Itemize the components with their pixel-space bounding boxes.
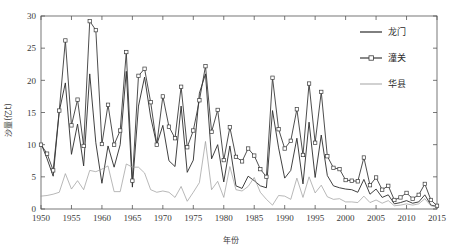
data-point-marker [423,182,426,185]
data-point-marker [350,179,353,182]
x-tick-label: 1975 [184,213,203,223]
data-point-marker [45,152,48,155]
data-point-marker [70,124,73,127]
y-tick-label: 10 [27,140,37,150]
data-point-marker [344,178,347,181]
data-point-marker [216,108,219,111]
legend-label-2: 潼关 [388,52,406,63]
x-tick-label: 1980 [215,213,234,223]
data-point-marker [259,167,262,170]
data-point-marker [76,98,79,101]
data-point-marker [143,67,146,70]
data-point-marker [429,198,432,201]
x-tick-label: 2010 [398,213,417,223]
data-point-marker [326,155,329,158]
data-point-marker [374,176,377,179]
x-tick-label: 1970 [154,213,173,223]
data-point-marker [295,108,298,111]
data-point-marker [179,85,182,88]
x-tick-label: 1960 [93,213,112,223]
data-point-marker [64,39,67,42]
data-point-marker [106,103,109,106]
x-axis-title: 年份 [223,235,239,245]
data-point-marker [222,158,225,161]
data-point-marker [58,109,61,112]
y-tick-label: 25 [27,43,37,53]
data-point-marker [313,141,316,144]
data-point-marker [246,147,249,150]
data-point-marker [271,76,274,79]
data-point-marker [228,126,231,129]
y-tick-label: 30 [27,11,37,21]
data-point-marker [125,50,128,53]
data-point-marker [307,82,310,85]
data-point-marker [387,184,390,187]
data-point-marker [405,191,408,194]
data-point-marker [253,154,256,157]
data-point-marker [88,19,91,22]
legend-label-1: 龙门 [388,26,406,37]
data-point-marker [356,180,359,183]
x-tick-label: 2015 [428,213,447,223]
data-point-marker [362,156,365,159]
data-point-marker [301,153,304,156]
data-point-marker [283,147,286,150]
data-point-marker [149,101,152,104]
y-tick-label: 5 [32,172,37,182]
data-point-marker [173,137,176,140]
x-tick-label: 1990 [276,213,295,223]
data-point-marker [380,188,383,191]
legend-marker-2 [369,56,373,60]
data-point-marker [137,74,140,77]
data-point-marker [198,99,201,102]
x-tick-label: 1965 [123,213,142,223]
data-point-marker [393,198,396,201]
legend-label-3: 华县 [388,78,406,89]
data-point-marker [204,64,207,67]
y-tick-label: 15 [27,108,37,118]
data-point-marker [119,129,122,132]
data-point-marker [167,125,170,128]
data-point-marker [320,90,323,93]
data-point-marker [94,28,97,31]
data-point-marker [368,184,371,187]
data-point-marker [289,139,292,142]
x-tick-label: 2000 [337,213,356,223]
data-point-marker [234,155,237,158]
data-point-marker [100,142,103,145]
data-point-marker [338,167,341,170]
data-point-marker [411,197,414,200]
y-axis-title: 沙量(亿t) [3,103,13,136]
data-point-marker [210,130,213,133]
x-tick-label: 1985 [245,213,264,223]
y-tick-label: 20 [27,76,37,86]
data-point-marker [277,128,280,131]
x-tick-label: 1995 [306,213,325,223]
data-point-marker [265,175,268,178]
data-point-marker [131,179,134,182]
data-point-marker [192,129,195,132]
data-point-marker [39,143,42,146]
data-point-marker [155,143,158,146]
x-tick-label: 2005 [367,213,386,223]
data-point-marker [186,146,189,149]
data-point-marker [332,166,335,169]
data-point-marker [82,144,85,147]
chart-root: 0510152025301950195519601965197019751980… [0,0,463,250]
x-tick-label: 1950 [32,213,51,223]
sediment-load-line-chart: 0510152025301950195519601965197019751980… [0,0,463,250]
x-tick-label: 1955 [62,213,81,223]
data-point-marker [161,95,164,98]
data-point-marker [51,169,54,172]
data-point-marker [417,193,420,196]
data-point-marker [112,143,115,146]
data-point-marker [399,196,402,199]
data-point-marker [240,160,243,163]
